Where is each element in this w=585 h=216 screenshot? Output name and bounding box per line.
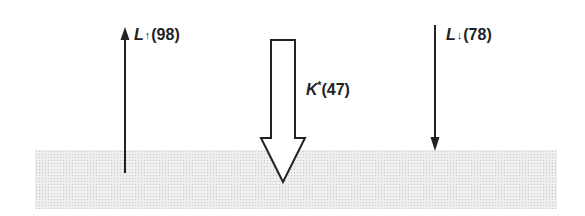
net-shortwave-arrow-icon (261, 40, 305, 182)
longwave-down-label: L↓(78) (446, 27, 492, 43)
longwave-up-label: L↑(98) (134, 27, 180, 43)
net-shortwave-value: (47) (321, 81, 349, 98)
net-shortwave-label: K*(47) (306, 81, 350, 98)
down-arrow-glyph-icon: ↓ (457, 29, 463, 41)
longwave-down-symbol: L (446, 26, 456, 43)
longwave-up-symbol: L (134, 26, 144, 43)
up-arrow-glyph-icon: ↑ (145, 29, 151, 41)
longwave-down-arrow-icon (431, 25, 440, 151)
longwave-down-value: (78) (463, 26, 491, 43)
net-shortwave-symbol: K (306, 81, 318, 98)
longwave-up-arrow-icon (121, 27, 130, 173)
flux-arrows (0, 0, 585, 216)
longwave-up-value: (98) (151, 26, 179, 43)
